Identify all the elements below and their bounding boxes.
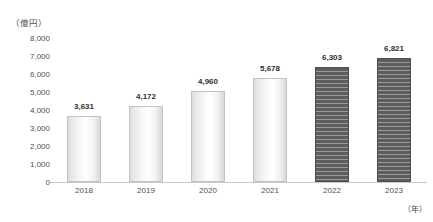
x-axis-line: [50, 182, 427, 183]
bar-value-label: 4,960: [198, 77, 218, 86]
bar-value-label: 4,172: [136, 92, 156, 101]
y-axis-tick-labels: 8,000 7,000 6,000 5,000 4,000 3,000 2,00…: [0, 0, 50, 222]
bar-slot: 4,172: [115, 36, 177, 182]
bar-slot: 5,678: [239, 36, 301, 182]
bar-2019[interactable]: [129, 106, 163, 182]
y-tick-label: 5,000: [4, 88, 50, 97]
y-tick-label: 1,000: [4, 160, 50, 169]
bar-2020[interactable]: [191, 91, 225, 182]
bar-slot: 3,631: [53, 36, 115, 182]
y-tick-label: 3,000: [4, 124, 50, 133]
y-tick-label: 6,000: [4, 70, 50, 79]
bar-slot: 6,821: [363, 36, 425, 182]
y-tick-label: 7,000: [4, 52, 50, 61]
x-tick-label-2021: 2021: [239, 186, 301, 195]
y-tick-label: 2,000: [4, 142, 50, 151]
bar-slot: 6,303: [301, 36, 363, 182]
x-tick-label-2023: 2023: [363, 186, 425, 195]
bar-2021[interactable]: [253, 78, 287, 182]
bar-2023[interactable]: [377, 58, 411, 182]
plot-area: 3,631 4,172 4,960 5,678 6,303 6,821: [53, 36, 425, 182]
bar-value-label: 6,821: [384, 44, 404, 53]
bar-slot: 4,960: [177, 36, 239, 182]
x-tick-label-2019: 2019: [115, 186, 177, 195]
x-tick-label-2018: 2018: [53, 186, 115, 195]
bar-value-label: 6,303: [322, 53, 342, 62]
x-tick-label-2020: 2020: [177, 186, 239, 195]
x-axis-unit-label: （年）: [403, 203, 427, 214]
bar-value-label: 3,631: [74, 102, 94, 111]
y-tick-label: 8,000: [4, 34, 50, 43]
y-tick-label: 0: [4, 178, 50, 187]
bar-2018[interactable]: [67, 116, 101, 182]
bar-chart: （億円） 8,000 7,000 6,000 5,000 4,000 3,000…: [0, 0, 433, 222]
bar-value-label: 5,678: [260, 64, 280, 73]
y-tick-label: 4,000: [4, 106, 50, 115]
bar-2022[interactable]: [315, 67, 349, 182]
x-tick-label-2022: 2022: [301, 186, 363, 195]
